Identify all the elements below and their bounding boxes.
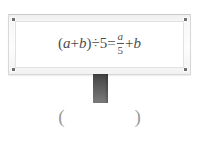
bolt-icon-bottom-right bbox=[184, 68, 187, 71]
equals-sign: = bbox=[107, 35, 115, 51]
worksheet-figure: (a+b)÷5=a5+b () bbox=[0, 0, 199, 141]
answer-close-paren: ) bbox=[135, 107, 141, 126]
sign-board: (a+b)÷5=a5+b bbox=[8, 14, 191, 75]
answer-blank[interactable]: () bbox=[0, 107, 199, 126]
equation-variable-b-right: b bbox=[134, 35, 142, 51]
division-sign-icon: ÷ bbox=[91, 35, 99, 51]
fraction-a-over-5: a5 bbox=[117, 30, 125, 56]
bolt-icon-top-right bbox=[184, 18, 187, 21]
fraction-denominator: 5 bbox=[117, 45, 125, 57]
fraction-numerator: a bbox=[117, 30, 125, 42]
sign-board-panel: (a+b)÷5=a5+b bbox=[15, 21, 184, 68]
equation-plus-sign-left: + bbox=[70, 35, 78, 51]
equation-divisor: 5 bbox=[100, 35, 108, 51]
answer-open-paren: ( bbox=[58, 107, 64, 126]
sign-post bbox=[93, 74, 108, 103]
equation: (a+b)÷5=a5+b bbox=[16, 31, 183, 57]
equation-plus-sign-right: + bbox=[125, 35, 133, 51]
bolt-icon-bottom-left bbox=[12, 68, 15, 71]
